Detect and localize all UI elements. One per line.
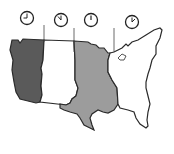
zone-pacific (10, 39, 44, 103)
time-zone-map (0, 0, 174, 154)
zone-eastern (108, 28, 162, 128)
zone-mountain (40, 40, 78, 105)
clock-icon (55, 14, 68, 27)
clock-icon (85, 14, 98, 27)
clock-icon (21, 12, 34, 25)
clock-icon (126, 16, 139, 29)
